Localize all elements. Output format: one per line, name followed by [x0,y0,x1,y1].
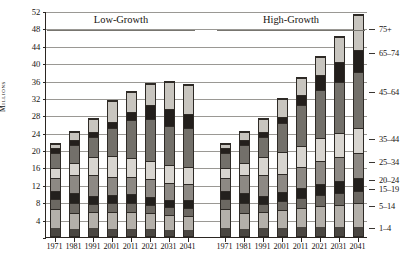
bar-segment-35-44 [184,167,194,184]
bar-segment-75+ [127,92,137,112]
bar-segment-35-44 [146,161,156,179]
bar-segment-65-74 [127,112,137,121]
bar-segment-45-64 [221,153,231,168]
x-tick-label: 2021 [312,242,328,251]
bar-segment-15-19 [89,204,99,212]
bar-segment-1-4 [165,230,175,236]
bar-segment-45-64 [51,153,61,168]
y-tick-label: 8 [20,198,40,208]
bar-segment-5-14 [51,209,61,227]
bar-segment-35-44 [240,163,250,175]
gridline [46,12,367,13]
bar-segment-15-19 [259,204,269,212]
bar-high-growth-1991 [258,118,270,237]
bar-segment-20-24 [165,200,175,208]
bar-segment-15-19 [221,199,231,209]
bar-segment-5-14 [89,212,99,228]
bar-segment-75+ [146,84,156,105]
legend-label-20-24: 20–24 [379,175,399,184]
bar-segment-45-64 [146,119,156,161]
bar-segment-25-34 [70,175,80,193]
bar-segment-45-64 [259,137,269,157]
y-tick-label: 36 [20,76,40,86]
panel-title-low-growth: Low-Growth [45,14,197,25]
bar-segment-25-34 [146,179,156,197]
x-tick-mark [131,238,132,242]
bar-segment-5-14 [221,209,231,227]
bar-segment-25-34 [297,167,307,188]
bar-high-growth-1971 [220,143,232,237]
bar-segment-5-14 [316,206,326,227]
bar-segment-25-34 [278,174,288,192]
legend-label-75+: 75+ [379,25,392,34]
bar-segment-35-44 [335,133,345,157]
x-tick-label: 2011 [123,242,139,251]
bar-segment-35-44 [316,138,326,160]
bar-segment-1-4 [221,228,231,236]
bar-segment-25-34 [51,178,61,190]
x-tick-mark [244,238,245,242]
legend-tick [369,189,375,190]
bar-segment-45-64 [297,105,307,146]
y-tick-mark [43,99,47,100]
bar-segment-45-64 [89,137,99,157]
bar-segment-20-24 [335,181,345,193]
panel-title-high-growth: High-Growth [215,14,367,25]
y-tick-label: 32 [20,94,40,104]
y-tick-label: 52 [20,7,40,17]
y-tick-mark [43,238,47,239]
x-tick-mark [150,238,151,242]
legend-label-25-34: 25–34 [379,157,399,166]
bar-segment-35-44 [127,158,137,176]
legend-label-35-44: 35–44 [379,134,399,143]
bar-segment-1-4 [89,228,99,236]
bar-segment-20-24 [108,195,118,204]
bar-segment-1-4 [316,227,326,236]
bar-segment-25-34 [127,177,137,195]
x-tick-label: 2031 [331,242,347,251]
y-tick-label: 28 [20,111,40,121]
bar-segment-45-64 [108,128,118,156]
x-tick-mark [339,238,340,242]
bar-segment-75+ [240,132,250,140]
bar-segment-35-44 [354,128,364,153]
bar-segment-20-24 [259,196,269,204]
bar-low-growth-2031 [164,81,176,237]
bar-segment-15-19 [51,199,61,209]
stacked-bar-chart: Millions 481216202428323640444852Low-Gro… [0,0,413,265]
bar-segment-15-19 [70,203,80,213]
x-tick-label: 1971 [47,242,63,251]
y-tick-label: 12 [20,181,40,191]
bar-segment-75+ [259,119,269,132]
legend-label-15-19: 15–19 [379,185,399,194]
x-tick-mark [188,238,189,242]
bar-segment-20-24 [89,196,99,204]
x-tick-mark [93,238,94,242]
bar-high-growth-1981 [239,131,251,237]
legend-label-45-64: 45–64 [379,88,399,97]
y-tick-mark [43,64,47,65]
legend-label-65-74: 65–74 [379,49,399,58]
x-tick-mark [74,238,75,242]
x-tick-label: 1991 [255,242,271,251]
bar-segment-1-4 [184,230,194,236]
bar-segment-75+ [335,37,345,62]
bar-segment-5-14 [165,215,175,230]
legend-label-5-14: 5–14 [379,202,395,211]
y-tick-mark [43,116,47,117]
bar-segment-35-44 [108,156,118,177]
x-tick-label: 1971 [217,242,233,251]
bar-segment-25-34 [354,153,364,178]
bar-segment-20-24 [297,188,307,198]
y-tick-mark [43,168,47,169]
y-tick-label: 40 [20,59,40,69]
bar-segment-75+ [165,82,175,109]
y-tick-mark [43,29,47,30]
bar-segment-35-44 [221,168,231,178]
bar-segment-15-19 [146,205,156,213]
bar-segment-1-4 [335,227,345,236]
bar-segment-20-24 [51,191,61,200]
bar-segment-5-14 [146,213,156,229]
x-tick-label: 2031 [161,242,177,251]
x-tick-mark [169,238,170,242]
